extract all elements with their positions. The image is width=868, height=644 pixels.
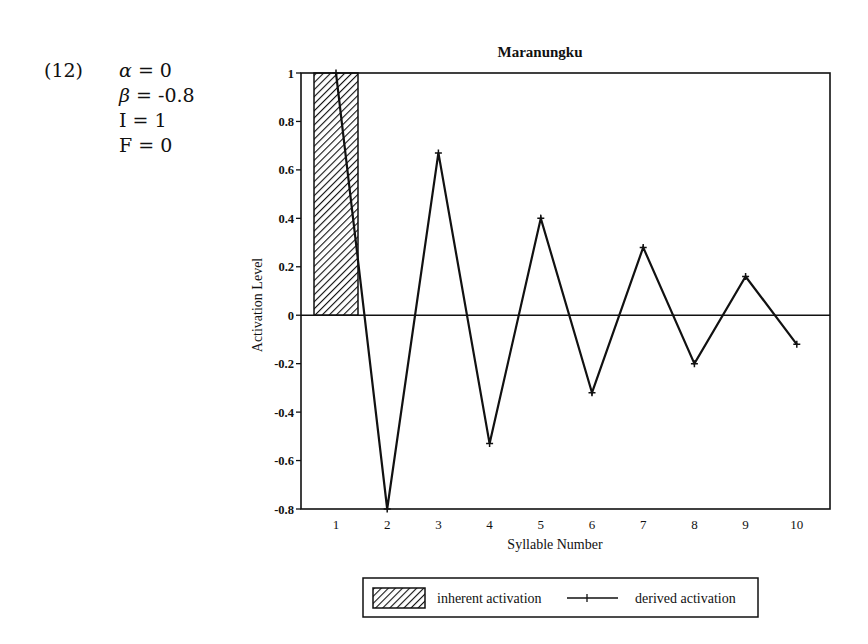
y-tick-label: 0.8 bbox=[278, 115, 294, 129]
chart-title: Maranungku bbox=[497, 44, 582, 60]
derived-activation-point bbox=[486, 440, 493, 447]
x-tick-label: 5 bbox=[538, 517, 545, 532]
legend-swatch-inherent bbox=[373, 588, 425, 608]
x-tick-label: 10 bbox=[790, 517, 803, 532]
derived-activation-point bbox=[435, 149, 442, 156]
y-tick-label: 0.2 bbox=[278, 260, 294, 274]
y-tick-label: -0.6 bbox=[274, 454, 294, 468]
x-tick-label: 3 bbox=[435, 517, 442, 532]
y-tick-label: -0.2 bbox=[274, 357, 294, 371]
y-tick-label: 0.6 bbox=[278, 163, 294, 177]
derived-activation-point bbox=[537, 215, 544, 222]
legend-label-inherent: inherent activation bbox=[437, 591, 542, 606]
x-tick-label: 7 bbox=[640, 517, 647, 532]
y-tick-label: 0 bbox=[288, 309, 294, 323]
derived-activation-point bbox=[640, 244, 647, 251]
x-tick-label: 2 bbox=[384, 517, 391, 532]
derived-activation-point bbox=[589, 389, 596, 396]
legend: inherent activation derived activation bbox=[363, 578, 758, 617]
x-tick-label: 8 bbox=[691, 517, 698, 532]
x-tick-label: 4 bbox=[486, 517, 493, 532]
inherent-activation-bar bbox=[314, 73, 358, 315]
derived-activation-point bbox=[384, 506, 391, 513]
legend-label-derived: derived activation bbox=[635, 591, 736, 606]
derived-activation-line bbox=[336, 73, 797, 509]
y-axis-title: Activation Level bbox=[250, 258, 265, 353]
y-tick-label: 0.4 bbox=[278, 212, 294, 226]
x-tick-label: 6 bbox=[589, 517, 596, 532]
plot-area: 10.80.60.40.20-0.2-0.4-0.6-0.81234567891… bbox=[274, 67, 830, 533]
x-tick-label: 1 bbox=[333, 517, 340, 532]
y-tick-label: -0.8 bbox=[274, 503, 294, 517]
chart: Maranungku 10.80.60.40.20-0.2-0.4-0.6-0.… bbox=[0, 0, 868, 644]
y-tick-label: -0.4 bbox=[274, 406, 295, 420]
x-tick-label: 9 bbox=[742, 517, 749, 532]
x-axis-title: Syllable Number bbox=[507, 537, 603, 552]
y-tick-label: 1 bbox=[288, 67, 294, 81]
